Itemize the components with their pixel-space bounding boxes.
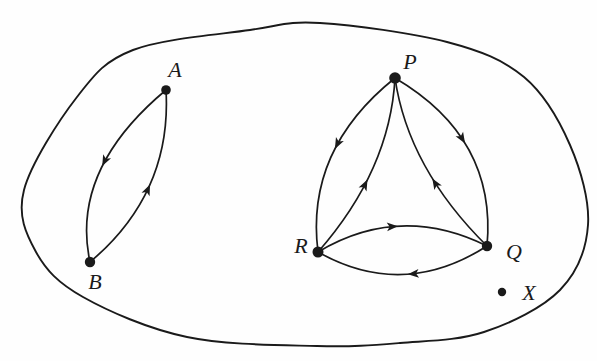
edge-Q-R	[318, 246, 487, 275]
arrowhead-Q-P	[429, 176, 442, 190]
edge-P-Q	[395, 78, 488, 246]
node-P	[389, 72, 401, 84]
edge-P-R	[316, 78, 395, 252]
node-R	[313, 247, 324, 258]
node-label-R: R	[293, 233, 308, 258]
node-label-X: X	[521, 280, 537, 305]
arrowhead-B-A	[142, 183, 154, 197]
arrowhead-R-P	[359, 178, 372, 192]
arrowhead-P-R	[331, 137, 344, 151]
edge-Q-P	[395, 78, 487, 246]
node-label-A: A	[166, 57, 182, 82]
node-X	[498, 288, 506, 296]
node-label-P: P	[402, 49, 416, 74]
node-label-Q: Q	[506, 239, 522, 264]
node-Q	[482, 241, 492, 251]
node-B	[85, 257, 95, 267]
node-A	[161, 85, 171, 95]
edge-B-A	[90, 90, 166, 262]
arrowhead-P-Q	[456, 132, 469, 146]
surface-boundary	[22, 23, 589, 347]
edge-R-Q	[318, 226, 487, 252]
arrowhead-A-B	[98, 154, 111, 168]
edge-R-P	[318, 78, 395, 252]
graph-diagram-svg: ABPRQX	[0, 0, 597, 361]
graph-figure: ABPRQX	[0, 0, 597, 361]
node-label-B: B	[88, 269, 101, 294]
